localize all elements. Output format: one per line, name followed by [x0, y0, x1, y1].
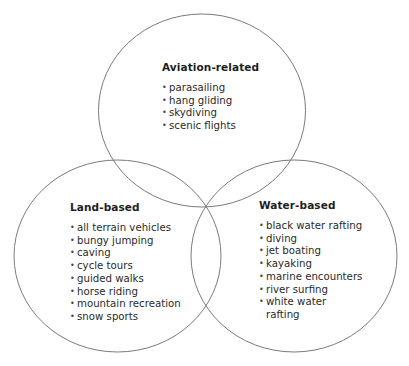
aviation-list: •parasailing •hang gliding •skydiving •s…	[162, 82, 259, 133]
list-item: •snow sports	[70, 311, 181, 324]
bullet-icon: •	[162, 120, 167, 133]
aviation-title: Aviation-related	[162, 61, 259, 73]
water-list: •black water rafting •diving •jet boatin…	[259, 220, 362, 322]
list-item: •hang gliding	[162, 95, 259, 108]
bullet-icon: •	[70, 260, 75, 273]
list-item: •caving	[70, 247, 181, 260]
bullet-icon: •	[259, 233, 264, 246]
bullet-icon: •	[162, 107, 167, 120]
bullet-icon: •	[162, 82, 167, 95]
bullet-icon: •	[259, 220, 264, 233]
bullet-icon: •	[70, 247, 75, 260]
water-title: Water-based	[259, 199, 362, 211]
bullet-icon: •	[70, 298, 75, 311]
bullet-icon: •	[259, 245, 264, 258]
list-item: •jet boating	[259, 245, 362, 258]
list-item: •bungy jumping	[70, 235, 181, 248]
list-item: •marine encounters	[259, 271, 362, 284]
list-item: •kayaking	[259, 258, 362, 271]
list-item: •horse riding	[70, 286, 181, 299]
list-item: •scenic flights	[162, 120, 259, 133]
bullet-icon: •	[259, 271, 264, 284]
list-item: •cycle tours	[70, 260, 181, 273]
water-group: Water-based •black water rafting •diving…	[259, 199, 362, 322]
bullet-icon: •	[70, 286, 75, 299]
aviation-group: Aviation-related •parasailing •hang glid…	[162, 61, 259, 133]
land-title: Land-based	[70, 201, 181, 213]
list-item: •guided walks	[70, 273, 181, 286]
bullet-icon: •	[162, 95, 167, 108]
bullet-icon: •	[259, 284, 264, 297]
list-item: •diving	[259, 233, 362, 246]
bullet-icon: •	[70, 235, 75, 248]
bullet-icon: •	[259, 258, 264, 271]
bullet-icon: •	[259, 296, 264, 309]
list-item: •all terrain vehicles	[70, 222, 181, 235]
land-group: Land-based •all terrain vehicles •bungy …	[70, 201, 181, 324]
bullet-icon: •	[70, 273, 75, 286]
bullet-icon: •	[70, 222, 75, 235]
list-item: •skydiving	[162, 107, 259, 120]
bullet-icon: •	[70, 311, 75, 324]
list-item: •white water rafting	[259, 296, 356, 321]
land-list: •all terrain vehicles •bungy jumping •ca…	[70, 222, 181, 324]
list-item: •river surfing	[259, 284, 362, 297]
list-item: •parasailing	[162, 82, 259, 95]
list-item: •black water rafting	[259, 220, 362, 233]
list-item: •mountain recreation	[70, 298, 181, 311]
